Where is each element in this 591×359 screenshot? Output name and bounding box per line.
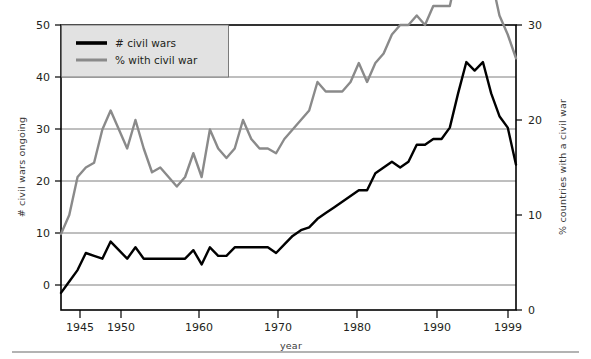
right-axis-tick-labels: 30 20 10 0 [528, 19, 542, 317]
x-axis-tick-labels: 1945 1950 1960 1970 1980 1990 1999 [66, 321, 522, 334]
right-tick-label-10: 10 [528, 209, 542, 222]
legend-background [62, 25, 229, 77]
x-axis-title: year [280, 340, 302, 351]
left-tick-label-50: 50 [36, 19, 50, 32]
y-axis-title: # civil wars ongoing [16, 117, 27, 218]
legend-label-civil-wars: # civil wars [115, 37, 176, 49]
left-tick-label-0: 0 [43, 279, 50, 292]
right-tick-label-20: 20 [528, 114, 542, 127]
right-axis-ticks [516, 25, 522, 310]
right-tick-label-0: 0 [528, 304, 535, 317]
left-tick-label-40: 40 [36, 71, 50, 84]
x-tick-label-1999: 1999 [494, 321, 522, 334]
left-tick-label-10: 10 [36, 227, 50, 240]
civil-wars-chart-figure: 50 40 30 20 10 0 30 20 10 0 [0, 0, 591, 359]
x-tick-label-1990: 1990 [423, 321, 451, 334]
x-tick-label-1970: 1970 [264, 321, 292, 334]
y2-axis-title: % countries with a civil war [557, 99, 568, 235]
x-tick-label-1980: 1980 [343, 321, 371, 334]
left-tick-label-20: 20 [36, 175, 50, 188]
chart-svg: 50 40 30 20 10 0 30 20 10 0 [0, 0, 591, 359]
x-tick-label-1950: 1950 [107, 321, 135, 334]
series-line-civil-wars [61, 62, 516, 293]
gridlines [61, 77, 516, 285]
right-tick-label-30: 30 [528, 19, 542, 32]
x-axis-ticks [80, 310, 508, 318]
chart-legend: # civil wars % with civil war [62, 25, 229, 77]
legend-label-percent-with-civil-war: % with civil war [115, 54, 198, 66]
left-axis-tick-labels: 50 40 30 20 10 0 [36, 19, 50, 292]
x-tick-label-1960: 1960 [185, 321, 213, 334]
x-tick-label-1945: 1945 [66, 321, 94, 334]
left-tick-label-30: 30 [36, 123, 50, 136]
left-axis-ticks [55, 25, 61, 285]
